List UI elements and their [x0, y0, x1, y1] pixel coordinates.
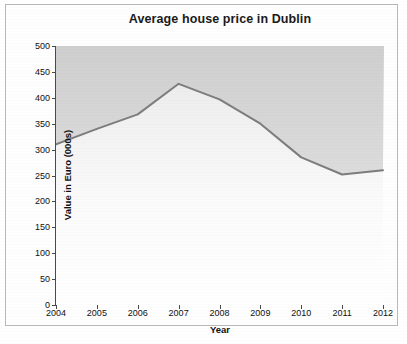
y-axis-label: Value in Euro (000s) [62, 130, 73, 220]
y-axis-tick-label: 100 [26, 248, 50, 258]
y-axis-tick-label: 150 [26, 222, 50, 232]
x-axis-tick-mark [260, 305, 261, 309]
y-axis-tick-mark [52, 46, 56, 47]
y-axis-tick-mark [52, 98, 56, 99]
x-axis-tick-label: 2006 [118, 308, 158, 318]
y-axis-tick-label: 500 [26, 41, 50, 51]
x-axis-tick-mark [179, 305, 180, 309]
y-axis-tick-mark [52, 176, 56, 177]
x-axis-tick-mark [220, 305, 221, 309]
x-axis-tick-mark [342, 305, 343, 309]
y-axis-tick-label: 400 [26, 93, 50, 103]
y-axis-tick-label: 450 [26, 67, 50, 77]
y-axis-tick-label: 200 [26, 196, 50, 206]
x-axis-tick-mark [56, 305, 57, 309]
line-series-svg [56, 46, 384, 305]
x-axis-tick-label: 2005 [77, 308, 117, 318]
x-axis-tick-mark [97, 305, 98, 309]
y-axis-tick-mark [52, 227, 56, 228]
y-axis-tick-mark [52, 150, 56, 151]
chart-figure: Average house price in Dublin Value [0, 0, 407, 344]
x-axis-tick-label: 2010 [281, 308, 321, 318]
y-axis-tick-label: 300 [26, 145, 50, 155]
y-axis-tick-mark [52, 279, 56, 280]
x-axis-label: Year [56, 324, 384, 335]
x-axis-tick-label: 2012 [363, 308, 403, 318]
chart-title: Average house price in Dublin [55, 12, 385, 26]
y-axis-tick-label: 250 [26, 171, 50, 181]
y-axis-tick-mark [52, 201, 56, 202]
y-axis-tick-label: 350 [26, 119, 50, 129]
x-axis-tick-mark [383, 305, 384, 309]
y-axis-tick-mark [52, 72, 56, 73]
plot-area: Value in Euro (000s) 0501001502002503003… [55, 46, 383, 305]
y-axis-tick-mark [52, 124, 56, 125]
y-axis-tick-mark [52, 253, 56, 254]
x-axis-tick-label: 2011 [322, 308, 362, 318]
x-axis-tick-label: 2008 [200, 308, 240, 318]
x-axis-tick-mark [138, 305, 139, 309]
y-axis-tick-label: 50 [26, 274, 50, 284]
x-axis-tick-mark [301, 305, 302, 309]
x-axis-tick-label: 2009 [240, 308, 280, 318]
x-axis-tick-label: 2007 [159, 308, 199, 318]
x-axis-tick-label: 2004 [36, 308, 76, 318]
